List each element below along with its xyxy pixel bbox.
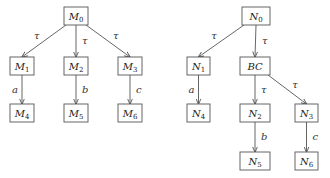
edge-m3-m6: c [130, 75, 142, 104]
node-n1: N1 [187, 57, 210, 75]
node-n4: N4 [187, 104, 210, 122]
node-n0: N0 [242, 7, 270, 25]
edge-label: τ [262, 35, 268, 46]
edge-label: τ [211, 30, 217, 41]
edge-n0-n1: τ [199, 25, 245, 57]
edge-label: τ [113, 30, 119, 41]
node-m6: M6 [118, 104, 142, 122]
edge-label: τ [292, 79, 298, 90]
node-n3: N3 [295, 104, 318, 122]
edge-n2-n5: b [255, 122, 267, 152]
edge-arrow [86, 25, 130, 57]
edge-label: a [189, 84, 195, 95]
edge-m0-m2: τ [76, 25, 88, 57]
edge-bc-n2: τ [255, 75, 267, 104]
edge-m0-m3: τ [86, 25, 130, 57]
edge-arrow [199, 25, 245, 57]
edge-label: a [12, 84, 18, 95]
node-m0: M0 [64, 7, 88, 25]
node-m2: M2 [64, 57, 88, 75]
edge-label: c [136, 84, 142, 95]
edge-arrow [255, 25, 256, 57]
edge-n3-n6: c [307, 122, 319, 152]
node-bc: BC [240, 57, 270, 75]
edge-arrow [268, 75, 307, 104]
edge-bc-n3: τ [268, 75, 307, 104]
edge-label: c [313, 131, 319, 142]
node-n2: N2 [240, 104, 270, 122]
node-m3: M3 [118, 57, 142, 75]
edge-label: b [82, 84, 88, 95]
edge-label: τ [34, 30, 40, 41]
edge-label: τ [261, 84, 267, 95]
node-m5: M5 [64, 104, 88, 122]
edge-m1-m4: a [12, 75, 22, 104]
edge-m0-m1: τ [22, 25, 66, 57]
node-n5: N5 [240, 152, 270, 170]
node-label: BC [246, 61, 263, 72]
node-m4: M4 [10, 104, 34, 122]
edge-m2-m5: b [76, 75, 88, 104]
edge-arrow [22, 25, 66, 57]
edge-label: τ [82, 35, 88, 46]
node-m1: M1 [10, 57, 34, 75]
edge-label: b [261, 131, 267, 142]
diagram-canvas: τττabcττaττbc M0M1M2M3M4M5M6N0N1BCN4N2N3… [0, 0, 330, 178]
node-n6: N6 [295, 152, 318, 170]
edge-n1-n4: a [189, 75, 199, 104]
edge-n0-bc: τ [255, 25, 268, 57]
